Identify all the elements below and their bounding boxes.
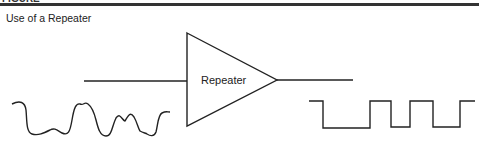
distorted-wave [12, 102, 170, 136]
square-wave [309, 101, 475, 128]
repeater-label: Repeater [201, 74, 247, 86]
repeater-diagram: Repeater [0, 0, 479, 147]
